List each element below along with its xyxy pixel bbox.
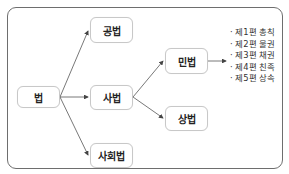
node-label: 공법	[103, 23, 121, 38]
node-label: 상법	[178, 111, 196, 126]
list-item: 제3편 채권	[230, 50, 275, 62]
arrow-private-to-commercial	[133, 97, 163, 118]
list-item: 제1편 총칙	[230, 27, 275, 39]
civil-law-parts-list: 제1편 총칙 제2편 물권 제3편 채권 제4편 친족 제5편 상속	[230, 27, 275, 85]
arrow-private-to-civil	[133, 61, 163, 97]
node-private-law: 사법	[90, 85, 133, 110]
node-label: 사법	[103, 90, 121, 105]
node-civil-law: 민법	[165, 48, 208, 74]
node-public-law: 공법	[90, 17, 133, 43]
node-law: 법	[17, 86, 60, 108]
node-label: 법	[34, 90, 43, 105]
arrow-root-to-social-law	[60, 97, 88, 155]
arrow-root-to-public-law	[60, 31, 88, 97]
node-label: 민법	[178, 54, 196, 69]
node-label: 사회법	[98, 148, 125, 163]
list-item: 제5편 상속	[230, 73, 275, 85]
node-commercial-law: 상법	[165, 106, 208, 131]
node-social-law: 사회법	[90, 143, 133, 168]
list-item: 제2편 물권	[230, 39, 275, 51]
list-item: 제4편 친족	[230, 62, 275, 74]
